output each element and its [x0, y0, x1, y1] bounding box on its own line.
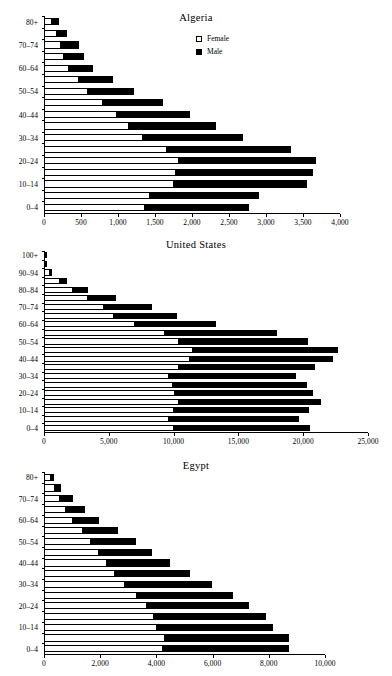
bar-row: [44, 304, 152, 310]
bar-segment-female: [44, 134, 143, 141]
y-axis-tick: [42, 406, 45, 407]
y-axis-tick: [42, 622, 45, 623]
y-axis-tick: [42, 389, 45, 390]
bar-segment-female: [44, 278, 60, 284]
y-axis-tick: [42, 28, 45, 29]
y-axis-label: 70–74: [0, 303, 38, 312]
y-axis-tick: [42, 51, 45, 52]
x-axis-tick: [266, 214, 267, 217]
y-axis-label: 0–4: [0, 423, 38, 432]
bar-segment-female: [44, 157, 179, 164]
bar-segment-male: [114, 313, 177, 319]
x-axis-label: 0: [42, 659, 46, 668]
y-axis-tick: [42, 337, 45, 338]
bar-segment-male: [164, 634, 289, 641]
bar-segment-female: [44, 330, 165, 336]
bar-segment-male: [99, 549, 153, 556]
bar-segment-female: [44, 295, 88, 301]
bar-segment-female: [44, 602, 147, 609]
bar-segment-male: [106, 559, 169, 566]
y-axis-tick: [42, 62, 45, 63]
plot-area-united-states: 0–410–1420–2430–3440–4450–5460–6470–7480…: [0, 235, 392, 456]
y-axis-label: 30–34: [0, 133, 38, 142]
y-axis-tick: [42, 600, 45, 601]
bar-row: [44, 624, 273, 631]
bar-row: [44, 559, 170, 566]
bar-segment-female: [44, 613, 154, 620]
bar-row: [44, 425, 310, 431]
bar-segment-male: [164, 330, 277, 336]
bar-segment-female: [44, 559, 107, 566]
bar-segment-male: [82, 527, 119, 534]
y-axis-tick: [42, 536, 45, 537]
bar-segment-male: [178, 157, 316, 164]
x-axis-tick: [303, 214, 304, 217]
plot-area-egypt: 0–410–1420–2430–3440–4450–5460–6470–7480…: [0, 456, 392, 676]
bar-segment-male: [45, 252, 47, 258]
bar-segment-male: [68, 65, 92, 72]
bar-segment-male: [146, 602, 249, 609]
y-axis-tick: [42, 120, 45, 121]
bar-row: [44, 18, 59, 25]
y-axis-tick: [42, 354, 45, 355]
bar-row: [44, 592, 233, 599]
bar-segment-male: [189, 356, 333, 362]
bar-segment-female: [44, 65, 69, 72]
bar-segment-male: [87, 295, 115, 301]
bar-segment-male: [173, 180, 307, 187]
bar-row: [44, 634, 289, 641]
x-axis-label: 2,000: [183, 218, 200, 227]
bar-segment-female: [44, 645, 163, 652]
bar-row: [44, 517, 99, 524]
x-axis-tick: [340, 214, 341, 217]
x-axis-tick: [238, 433, 239, 436]
x-axis-label: 8,000: [260, 659, 277, 668]
y-axis-tick: [42, 526, 45, 527]
bar-row: [44, 204, 249, 211]
y-axis-tick: [42, 311, 45, 312]
bar-segment-male: [59, 278, 67, 284]
bar-segment-male: [134, 321, 216, 327]
y-axis-tick: [42, 346, 45, 347]
y-axis-tick: [42, 504, 45, 505]
bar-row: [44, 269, 52, 275]
bar-row: [44, 549, 152, 556]
bar-segment-female: [44, 169, 176, 176]
bar-row: [44, 122, 216, 129]
bar-segment-female: [44, 99, 103, 106]
bar-segment-female: [44, 549, 99, 556]
bar-segment-male: [192, 347, 338, 353]
bar-segment-female: [44, 570, 115, 577]
x-axis-label: 3,000: [257, 218, 274, 227]
bar-segment-female: [44, 313, 114, 319]
y-axis-tick: [42, 483, 45, 484]
x-axis-label: 1,000: [109, 218, 126, 227]
y-axis-tick: [42, 515, 45, 516]
y-axis-label: 100+: [0, 251, 38, 260]
y-axis-label: 40–44: [0, 559, 38, 568]
x-axis-line: [44, 432, 368, 433]
bar-segment-female: [44, 88, 88, 95]
bar-segment-female: [44, 416, 169, 422]
y-axis-label: 10–14: [0, 180, 38, 189]
bar-segment-female: [44, 204, 145, 211]
bar-segment-female: [44, 425, 174, 431]
y-axis-tick: [42, 303, 45, 304]
bar-segment-female: [44, 321, 135, 327]
bar-row: [44, 347, 338, 353]
bar-segment-male: [144, 204, 249, 211]
y-axis-tick: [42, 547, 45, 548]
y-axis-label: 70–74: [0, 40, 38, 49]
bar-row: [44, 278, 67, 284]
bar-row: [44, 506, 85, 513]
x-axis-tick: [174, 433, 175, 436]
bar-segment-male: [63, 53, 84, 60]
bar-segment-male: [72, 287, 88, 293]
bar-segment-male: [54, 484, 60, 491]
bar-segment-female: [44, 581, 125, 588]
x-axis-label: 10,000: [163, 437, 184, 446]
y-axis-tick: [42, 329, 45, 330]
y-axis-tick: [42, 415, 45, 416]
bar-segment-male: [168, 416, 299, 422]
bar-segment-female: [44, 356, 190, 362]
